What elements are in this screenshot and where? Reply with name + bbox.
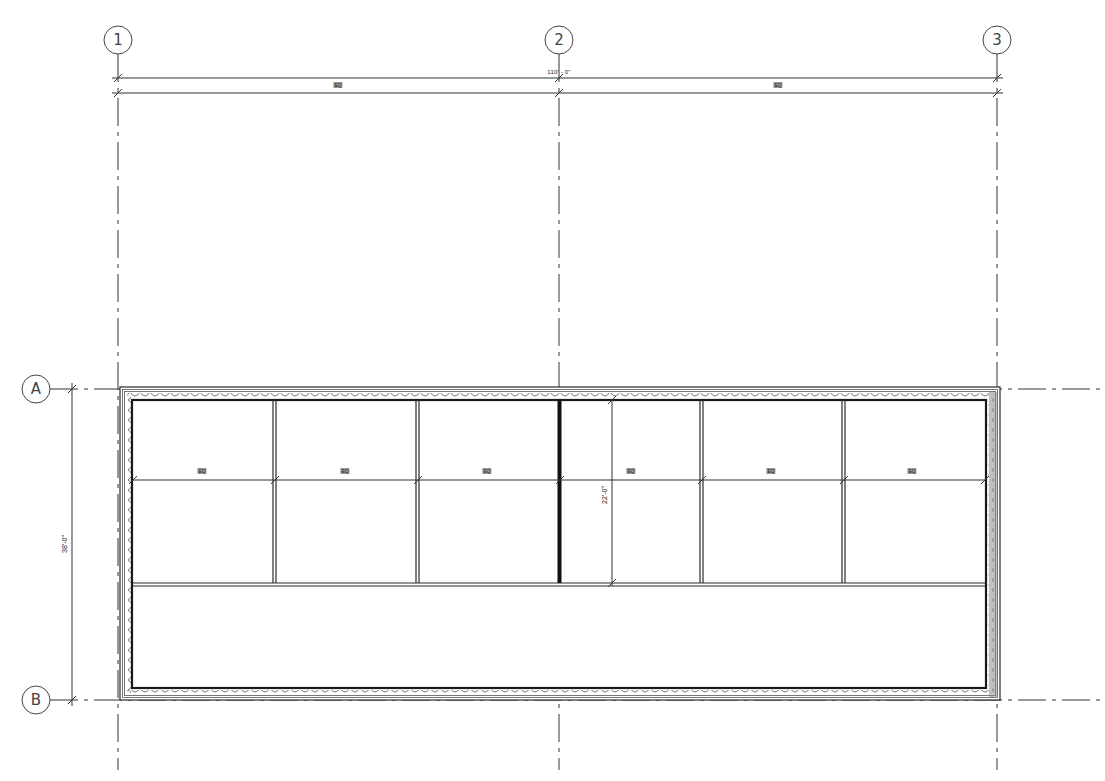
dimension-overall-depth[interactable] [68,383,76,706]
grid-label-b: B [22,686,50,714]
bay-eq-3: EQ [482,468,491,474]
floor-plan-canvas [0,0,1105,781]
bay-eq-5: EQ [766,468,775,474]
partition-3[interactable] [558,400,562,583]
bay-eq-6: EQ [907,468,916,474]
bay-eq-2: EQ [340,468,349,474]
grid-label-1: 1 [104,26,132,54]
grid-label-3: 3 [983,26,1011,54]
dimension-half-widths[interactable] [112,89,1003,97]
dimension-overall-width[interactable] [112,74,1003,82]
overall-depth-text: 38'-0" [61,535,68,553]
half-width-eq-right: EQ [773,82,782,88]
bay-depth-text: 22'-0" [601,486,608,504]
overall-width-text: 110' - 0" [547,69,570,75]
grid-label-a: A [22,375,50,403]
bay-eq-1: EQ [197,468,206,474]
bay-eq-4: EQ [626,468,635,474]
grid-label-2: 2 [545,26,573,54]
half-width-eq-left: EQ [333,82,342,88]
